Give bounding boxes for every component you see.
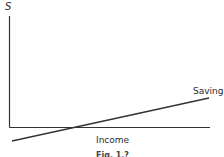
figure-caption: Fig. 1.? <box>96 151 129 157</box>
y-axis-label: S <box>5 2 11 12</box>
saving-function-chart: S Saving Income Fig. 1.? <box>0 0 224 157</box>
x-axis-label: Income <box>96 135 129 145</box>
saving-series-label: Saving <box>193 86 223 96</box>
chart-plot-area <box>0 0 224 157</box>
